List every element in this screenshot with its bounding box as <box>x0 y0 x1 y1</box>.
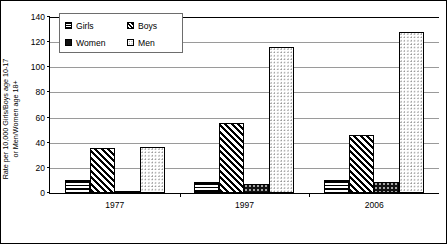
y-tick-label-60: 60 <box>36 113 45 123</box>
bar-girls-1977[interactable] <box>65 180 90 193</box>
x-tick-label-1977: 1977 <box>105 200 124 210</box>
bar-women-1997[interactable] <box>244 184 269 193</box>
legend-label-women: Women <box>76 38 105 48</box>
men-pattern-swatch <box>127 39 134 46</box>
x-tick-mark-2 <box>309 193 310 197</box>
bar-girls-1997[interactable] <box>194 182 219 193</box>
legend-label-boys: Boys <box>138 21 157 31</box>
y-tick-label-80: 80 <box>36 87 45 97</box>
women-pattern-swatch <box>65 39 72 46</box>
bar-women-1977[interactable] <box>115 191 140 193</box>
x-tick-label-1997: 1997 <box>235 200 254 210</box>
y-axis-title: Rate per 10,000 Girls/Boys age 10-17 or … <box>1 19 20 219</box>
y-tick-label-100: 100 <box>31 62 45 72</box>
bar-boys-1977[interactable] <box>90 148 115 193</box>
x-tick-label-2006: 2006 <box>365 200 384 210</box>
bar-men-2006[interactable] <box>399 32 424 193</box>
legend-item-girls: Girls <box>65 17 127 34</box>
bar-men-1997[interactable] <box>269 47 294 193</box>
y-tick-label-20: 20 <box>36 163 45 173</box>
y-tick-label-140: 140 <box>31 12 45 22</box>
bar-group-2006 <box>309 17 439 193</box>
legend-label-men: Men <box>138 38 155 48</box>
girls-pattern-swatch <box>65 22 72 29</box>
bar-girls-2006[interactable] <box>324 180 349 193</box>
boys-pattern-swatch <box>127 22 134 29</box>
bar-group-1997 <box>180 17 310 193</box>
y-tick-label-120: 120 <box>31 37 45 47</box>
y-tick-label-0: 0 <box>40 188 45 198</box>
chart-legend: Girls Boys Women Men <box>59 13 183 53</box>
chart-frame: Rate per 10,000 Girls/Boys age 10-17 or … <box>0 0 447 244</box>
bar-boys-1997[interactable] <box>219 123 244 193</box>
bar-men-1977[interactable] <box>140 147 165 194</box>
x-tick-mark-1 <box>180 193 181 197</box>
bar-boys-2006[interactable] <box>349 135 374 193</box>
y-tick-label-40: 40 <box>36 138 45 148</box>
legend-item-women: Women <box>65 34 127 51</box>
bar-women-2006[interactable] <box>374 182 399 193</box>
legend-item-men: Men <box>127 34 185 51</box>
legend-label-girls: Girls <box>76 21 94 31</box>
legend-item-boys: Boys <box>127 17 185 34</box>
